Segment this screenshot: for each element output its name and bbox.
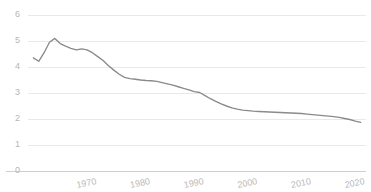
- x-tick-label: 2010: [290, 176, 312, 190]
- y-tick-label: 2: [15, 113, 20, 123]
- chart-canvas: 0123456 197019801990200020102020: [0, 0, 371, 192]
- y-tick-label: 4: [15, 61, 20, 71]
- x-tick-label: 2020: [344, 176, 366, 190]
- x-axis-tick-labels: 197019801990200020102020: [76, 176, 366, 190]
- x-tick-label: 1980: [129, 176, 151, 190]
- y-tick-label: 6: [15, 9, 20, 19]
- line-chart: 0123456 197019801990200020102020: [0, 0, 371, 192]
- x-tick-label: 2000: [237, 176, 259, 190]
- y-tick-label: 5: [15, 35, 20, 45]
- y-tick-label: 3: [15, 87, 20, 97]
- gridlines: [28, 16, 366, 172]
- x-tick-label: 1970: [76, 176, 98, 190]
- y-tick-label: 0: [15, 165, 20, 175]
- series-line: [33, 38, 360, 122]
- y-tick-label: 1: [15, 139, 20, 149]
- x-tick-label: 1990: [183, 176, 205, 190]
- y-axis-tick-labels: 0123456: [15, 9, 20, 175]
- data-series: [33, 38, 360, 122]
